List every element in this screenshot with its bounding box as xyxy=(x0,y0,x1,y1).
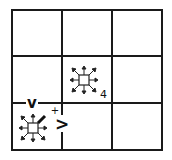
highlighted-northeast-arrow xyxy=(38,116,45,123)
grid-diagram: 4 v > + xyxy=(0,0,172,160)
agent-count-label: 4 xyxy=(100,88,107,101)
plus-marker: + xyxy=(51,105,59,116)
eight-way-arrows-icon xyxy=(19,114,47,142)
right-marker: > xyxy=(55,114,69,134)
eight-way-arrows-icon xyxy=(70,66,98,94)
down-marker: v xyxy=(27,94,37,112)
